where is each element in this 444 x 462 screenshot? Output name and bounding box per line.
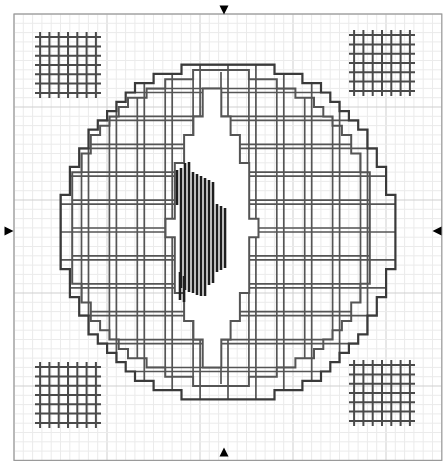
pattern-chart-canvas [0, 0, 444, 462]
pattern-chart [0, 0, 444, 462]
